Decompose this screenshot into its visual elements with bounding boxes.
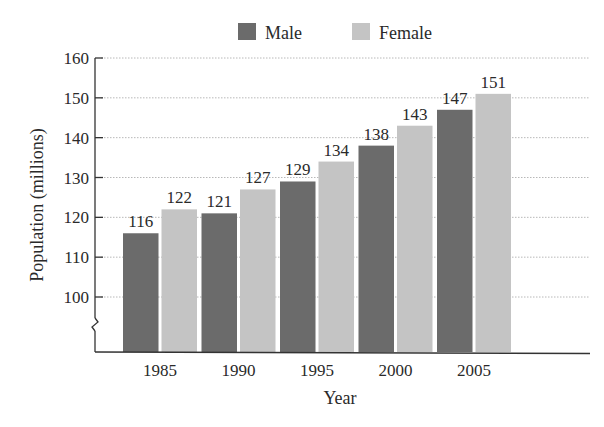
data-label: 143: [402, 105, 428, 124]
x-tick-label: 1995: [300, 361, 334, 380]
y-tick-label: 150: [64, 89, 90, 108]
data-label: 121: [207, 192, 233, 211]
data-label: 147: [442, 89, 468, 108]
y-tick-label: 160: [64, 49, 90, 68]
y-tick-label: 120: [64, 208, 90, 227]
data-label: 122: [167, 188, 193, 207]
bar-male-2000: [359, 146, 395, 352]
bar-male-1995: [280, 181, 316, 352]
data-label: 151: [481, 73, 507, 92]
legend-swatch-female: [352, 23, 370, 40]
x-tick-label: 1985: [143, 361, 177, 380]
bar-chart: 116122121127129134138143147151 100110120…: [0, 0, 604, 427]
axis-break-icon: [92, 318, 98, 331]
data-label: 129: [285, 160, 311, 179]
legend-label-female: Female: [379, 23, 432, 43]
x-tick-label: 2005: [457, 361, 491, 380]
y-axis-title: Population (millions): [27, 128, 48, 282]
bar-male-2005: [437, 110, 473, 352]
data-label: 134: [324, 141, 350, 160]
y-tick-label: 140: [64, 129, 90, 148]
x-axis-title: Year: [323, 388, 356, 408]
bar-female-2000: [397, 126, 433, 352]
legend-label-male: Male: [265, 23, 302, 43]
data-label: 127: [245, 168, 271, 187]
data-label: 138: [364, 125, 390, 144]
y-tick-label: 110: [64, 248, 89, 267]
bar-female-1995: [319, 162, 355, 352]
bars: 116122121127129134138143147151: [123, 73, 511, 352]
legend-swatch-male: [238, 23, 256, 40]
bar-male-1990: [202, 213, 238, 352]
bar-female-2005: [476, 94, 512, 352]
data-label: 116: [128, 212, 153, 231]
x-tick-label: 2000: [379, 361, 413, 380]
y-tick-label: 130: [64, 169, 90, 188]
x-tick-label: 1990: [222, 361, 256, 380]
bar-female-1990: [240, 189, 276, 352]
x-axis-line: [95, 352, 590, 354]
bar-female-1985: [162, 209, 198, 352]
legend: MaleFemale: [238, 23, 432, 43]
y-tick-label: 100: [64, 288, 90, 307]
bar-male-1985: [123, 233, 159, 352]
